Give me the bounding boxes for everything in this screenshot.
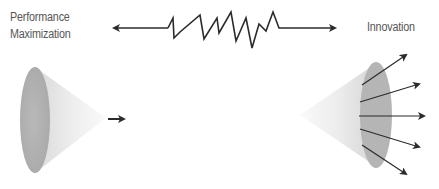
right-cone — [300, 55, 424, 174]
tension-arrow — [114, 12, 335, 48]
left-cone — [20, 67, 124, 173]
tension-diagram — [0, 0, 439, 189]
zigzag-icon — [168, 12, 290, 48]
